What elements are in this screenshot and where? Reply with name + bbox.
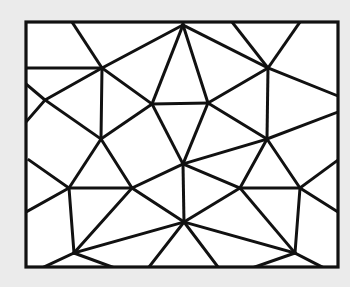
tiling-canvas <box>0 0 350 287</box>
tiling-edge <box>101 68 102 139</box>
tiling-figure <box>0 0 350 287</box>
tiling-edge <box>267 68 268 139</box>
tiling-edge <box>183 164 184 222</box>
tiling-edge <box>152 103 208 104</box>
